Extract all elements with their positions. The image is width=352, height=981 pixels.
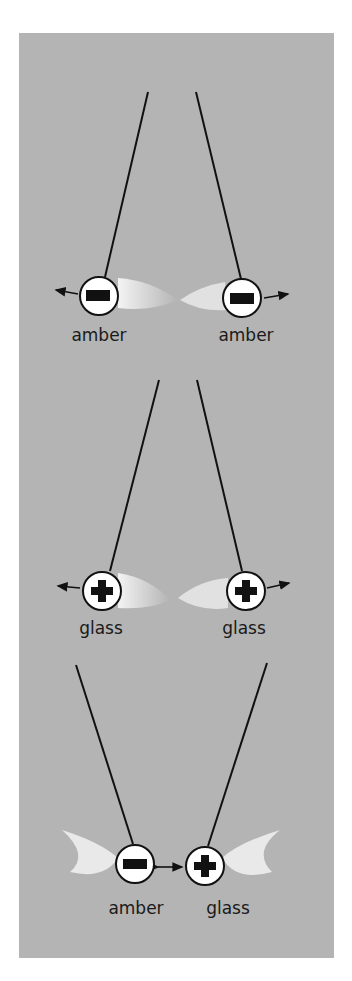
- panel-amber-amber: amber amber: [56, 92, 288, 345]
- string: [196, 92, 241, 279]
- string: [110, 380, 159, 571]
- arrow-right-icon: [267, 583, 289, 588]
- glass-ball: [186, 847, 224, 885]
- motion-blur: [118, 573, 170, 608]
- ball-label: amber: [71, 325, 126, 345]
- panel-amber-glass: amber glass: [62, 663, 280, 918]
- amber-ball: [223, 279, 261, 317]
- glass-ball: [83, 572, 121, 610]
- ball-label: amber: [108, 898, 163, 918]
- motion-blur: [62, 830, 118, 874]
- panel-glass-glass: glass glass: [58, 380, 289, 638]
- charged-balls-diagram: amber amber glass glass: [0, 0, 352, 981]
- string: [105, 92, 148, 277]
- arrow-left-icon: [58, 586, 80, 588]
- motion-blur: [178, 578, 228, 609]
- ball-label: glass: [206, 898, 250, 918]
- amber-ball: [80, 277, 118, 315]
- motion-blur: [180, 282, 228, 310]
- arrow-left-icon: [56, 290, 78, 294]
- minus-icon: [86, 290, 110, 301]
- ball-label: glass: [222, 618, 266, 638]
- motion-blur: [118, 278, 178, 309]
- string: [76, 665, 133, 844]
- minus-icon: [123, 859, 147, 869]
- ball-label: amber: [218, 325, 273, 345]
- motion-blur: [222, 830, 280, 875]
- amber-ball: [116, 845, 154, 883]
- arrow-right-icon: [264, 294, 288, 298]
- string: [208, 663, 267, 846]
- glass-ball: [227, 572, 265, 610]
- minus-icon: [230, 293, 254, 304]
- ball-label: glass: [79, 618, 123, 638]
- string: [197, 380, 242, 571]
